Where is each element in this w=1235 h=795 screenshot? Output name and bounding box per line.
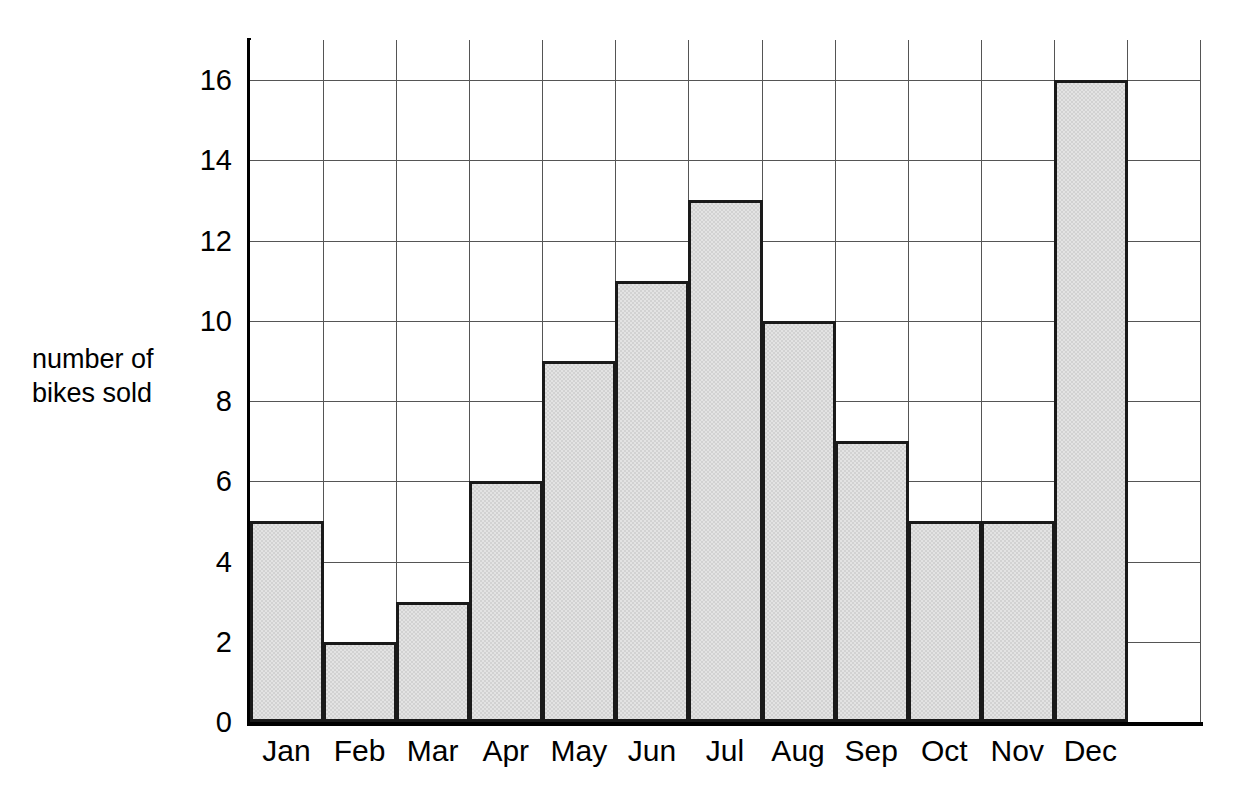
x-axis-tick-labels: JanFebMarAprMayJunJulAugSepOctNovDec: [250, 732, 1200, 776]
bar: [688, 200, 763, 722]
bar-chart-figure: number of bikes sold 0246810121416 JanFe…: [0, 0, 1235, 795]
x-axis-tick-label: Jul: [706, 732, 744, 770]
bar: [542, 361, 616, 722]
bar: [835, 441, 909, 722]
x-axis-tick-label: Aug: [771, 732, 824, 770]
x-axis-tick-label: May: [551, 732, 608, 770]
x-axis-tick-label: Jan: [262, 732, 310, 770]
bar: [396, 602, 470, 722]
x-axis-tick-label: Sep: [844, 732, 897, 770]
x-axis-tick-label: Feb: [334, 732, 386, 770]
bar: [250, 521, 324, 722]
plot-area: [250, 40, 1200, 722]
y-axis-tick-label: 12: [200, 226, 232, 255]
gridline-vertical: [1200, 40, 1201, 722]
bar: [323, 642, 397, 722]
x-axis-tick-label: Oct: [921, 732, 968, 770]
x-axis-line: [247, 722, 1203, 726]
y-axis-tick-label: 2: [216, 627, 232, 656]
x-axis-tick-label: Mar: [407, 732, 459, 770]
y-axis-tick-label: 16: [200, 66, 232, 95]
y-axis-tick-label: 8: [216, 387, 232, 416]
y-axis-tick-label: 4: [216, 547, 232, 576]
bar: [615, 281, 689, 722]
y-axis-tick-labels: 0246810121416: [150, 40, 242, 722]
y-axis-tick-label: 0: [216, 708, 232, 737]
x-axis-tick-label: Nov: [991, 732, 1044, 770]
bar: [762, 321, 836, 722]
bar: [469, 481, 543, 722]
bar: [908, 521, 982, 722]
x-axis-tick-label: Dec: [1064, 732, 1117, 770]
y-axis-tick-label: 14: [200, 146, 232, 175]
bar: [981, 521, 1055, 722]
bar: [1054, 80, 1128, 722]
bar-series: [250, 40, 1200, 722]
y-axis-label: number of bikes sold: [32, 342, 154, 410]
y-axis-label-line-1: number of: [32, 342, 154, 376]
y-axis-tick-label: 10: [200, 306, 232, 335]
x-axis-tick-label: Apr: [482, 732, 529, 770]
x-axis-tick-label: Jun: [628, 732, 676, 770]
y-axis-tick-label: 6: [216, 467, 232, 496]
y-axis-label-line-2: bikes sold: [32, 376, 154, 410]
